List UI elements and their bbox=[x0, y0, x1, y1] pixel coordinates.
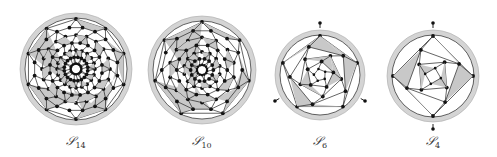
graph-figure: 𝒮14 𝒮10 𝒮6 𝒮4 bbox=[0, 0, 497, 157]
vertex bbox=[225, 100, 229, 104]
vertex bbox=[78, 41, 82, 45]
vertex bbox=[69, 57, 73, 61]
vertex bbox=[313, 73, 316, 76]
vertex bbox=[56, 49, 60, 53]
label-sub: 10 bbox=[201, 141, 211, 150]
label-sub: 14 bbox=[75, 141, 85, 150]
vertex bbox=[317, 68, 320, 71]
vertex bbox=[203, 57, 207, 61]
label-s4: 𝒮4 bbox=[413, 134, 453, 150]
vertex bbox=[223, 57, 227, 61]
arrow-head-icon bbox=[363, 99, 367, 103]
vertex bbox=[240, 68, 244, 72]
vertex bbox=[175, 100, 179, 104]
vertex bbox=[48, 71, 52, 75]
vertex bbox=[316, 79, 319, 82]
vertex bbox=[44, 37, 48, 41]
vertex bbox=[207, 77, 211, 81]
arrow-head-icon bbox=[273, 99, 277, 103]
arrow-head-icon bbox=[431, 21, 435, 25]
vertex bbox=[198, 79, 202, 83]
vertex bbox=[62, 91, 66, 95]
label-main: 𝒮 bbox=[426, 134, 435, 148]
vertex bbox=[86, 69, 90, 73]
vertex bbox=[210, 73, 214, 77]
vertex bbox=[201, 64, 204, 67]
vertex bbox=[430, 83, 433, 86]
vertex bbox=[225, 68, 229, 72]
label-s10: 𝒮10 bbox=[182, 134, 222, 150]
label-sub: 4 bbox=[435, 141, 440, 150]
arrow-head-icon bbox=[318, 21, 322, 25]
vertex bbox=[164, 51, 168, 55]
vertex bbox=[194, 93, 198, 97]
vertex bbox=[225, 37, 229, 41]
vertex bbox=[440, 77, 443, 80]
vertex bbox=[177, 57, 181, 61]
vertex bbox=[203, 73, 206, 76]
vertex bbox=[206, 68, 209, 71]
vertex bbox=[100, 71, 104, 75]
label-sub: 6 bbox=[322, 141, 327, 150]
vertex bbox=[323, 78, 326, 81]
label-s14: 𝒮14 bbox=[56, 134, 96, 150]
vertex bbox=[76, 55, 80, 59]
vertex bbox=[193, 59, 197, 63]
vertex bbox=[281, 61, 285, 65]
vertex bbox=[320, 60, 324, 64]
vertex bbox=[62, 65, 66, 69]
vertex bbox=[68, 108, 72, 112]
vertex bbox=[68, 26, 72, 30]
vertex bbox=[189, 68, 193, 72]
vertex bbox=[198, 64, 201, 67]
vertex bbox=[196, 70, 199, 73]
label-s6: 𝒮6 bbox=[300, 134, 340, 150]
vertex bbox=[324, 70, 327, 73]
vertex bbox=[73, 63, 76, 66]
label-main: 𝒮 bbox=[313, 134, 322, 148]
vertex bbox=[201, 74, 204, 77]
arrow-head-icon bbox=[431, 127, 435, 131]
vertex bbox=[177, 79, 181, 83]
vertex bbox=[424, 73, 427, 76]
vertex bbox=[434, 67, 437, 70]
